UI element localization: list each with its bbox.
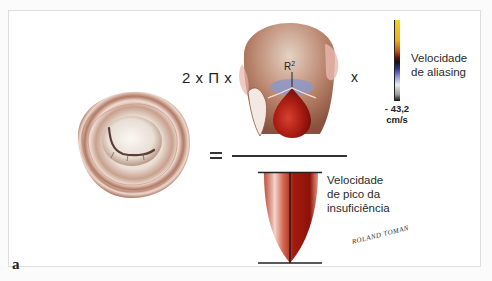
- peak-label-line2: de pico da: [327, 187, 390, 201]
- fraction-line: [232, 155, 347, 157]
- equals-sign: [210, 152, 222, 159]
- mitral-valve-illustration: [68, 84, 198, 204]
- aliasing-value-unit: cm/s: [378, 114, 416, 125]
- aliasing-value-number: - 43,2: [378, 103, 416, 114]
- color-bar-axis: [394, 20, 395, 101]
- peak-regurgitant-velocity-label: Velocidade de pico da insuficiência: [327, 173, 390, 215]
- peak-label-line1: Velocidade: [327, 173, 390, 187]
- radius-exponent: 2: [291, 60, 295, 67]
- times-symbol: x: [351, 69, 359, 85]
- formula-prefix: 2 x Π x: [182, 69, 232, 86]
- aliasing-label-line1: Velocidade: [411, 51, 467, 65]
- aliasing-label-line2: de aliasing: [411, 65, 467, 79]
- peak-label-line3: insuficiência: [327, 201, 390, 215]
- pisa-valve-illustration: [240, 14, 340, 139]
- aliasing-velocity-label: Velocidade de aliasing: [411, 51, 467, 79]
- regurgitant-jet-illustration: [256, 170, 326, 266]
- radius-squared-label: R2: [284, 61, 295, 72]
- aliasing-velocity-value: - 43,2 cm/s: [378, 103, 416, 125]
- panel-label: a: [12, 256, 20, 273]
